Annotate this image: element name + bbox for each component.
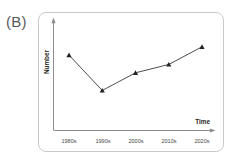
series-line <box>69 47 202 91</box>
y-axis-title: Number <box>43 49 50 74</box>
y-axis-arrowhead <box>51 18 55 24</box>
data-point-2010s <box>166 62 171 67</box>
data-point-1980s <box>66 53 71 58</box>
line-chart: Number Time 1980s 1990s 2000s 2010s 2020… <box>0 0 232 159</box>
x-tick-label-2: 2000s <box>128 138 143 144</box>
data-point-2020s <box>199 44 204 49</box>
series-markers <box>66 44 204 92</box>
x-tick-label-3: 2010s <box>161 138 176 144</box>
x-axis-arrowhead <box>210 128 216 132</box>
x-tick-label-1: 1990s <box>95 138 110 144</box>
figure-root: (B) Number Time 1980s 1990s 2000s 2010s … <box>0 0 232 159</box>
x-axis-title: Time <box>195 118 210 125</box>
x-tick-label-0: 1980s <box>61 138 76 144</box>
x-tick-label-4: 2020s <box>194 138 209 144</box>
